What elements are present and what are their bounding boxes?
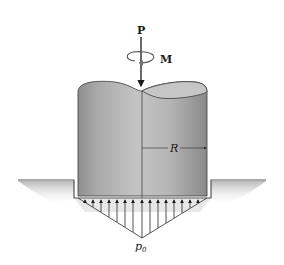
moment-label: M xyxy=(160,53,172,66)
force-label: P xyxy=(137,24,145,37)
pressure-label: p0 xyxy=(135,240,147,254)
cylinder xyxy=(78,81,207,198)
moment-m: M xyxy=(127,52,172,66)
radius-label: R xyxy=(169,142,178,155)
force-p: P xyxy=(137,24,145,86)
foundation-diagram: P M R p0 xyxy=(0,0,284,265)
